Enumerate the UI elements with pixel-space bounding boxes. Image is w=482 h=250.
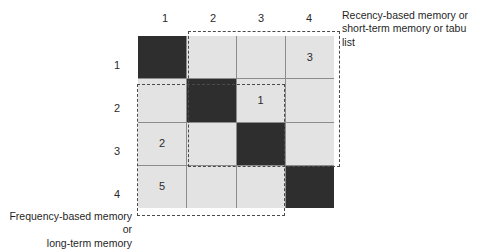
cell-value: 1 [258,95,264,106]
column-header-2: 2 [203,12,223,24]
recency-annotation-label: Recency-based memory or short-term memor… [342,9,480,49]
matrix-cell-r2c4[interactable] [286,79,334,121]
column-header-4: 4 [299,12,319,24]
matrix-cell-r1c2[interactable] [187,36,235,78]
memory-matrix: 3 1 2 5 [138,36,334,208]
frequency-annotation-label: Frequency-based memory or long-term memo… [2,210,132,250]
row-header-2: 2 [110,102,124,114]
matrix-cell-r3c1[interactable]: 2 [138,123,186,165]
matrix-cell-r2c2[interactable] [187,79,235,121]
matrix-cell-r4c1[interactable]: 5 [138,166,186,208]
cell-value: 3 [307,52,313,63]
matrix-cell-r1c3[interactable] [237,36,285,78]
cell-value: 5 [159,181,165,192]
matrix-cell-r4c4[interactable] [286,166,334,208]
row-header-1: 1 [110,59,124,71]
matrix-cell-r3c4[interactable] [286,123,334,165]
row-header-3: 3 [110,145,124,157]
matrix-cell-r1c4[interactable]: 3 [286,36,334,78]
cell-value: 2 [159,138,165,149]
column-header-1: 1 [155,12,175,24]
matrix-cell-r2c1[interactable] [138,79,186,121]
matrix-cell-r3c3[interactable] [237,123,285,165]
row-header-4: 4 [110,188,124,200]
column-header-3: 3 [251,12,271,24]
matrix-cell-r2c3[interactable]: 1 [237,79,285,121]
matrix-cell-r4c3[interactable] [237,166,285,208]
matrix-cell-r1c1[interactable] [138,36,186,78]
matrix-cell-r3c2[interactable] [187,123,235,165]
matrix-cell-r4c2[interactable] [187,166,235,208]
